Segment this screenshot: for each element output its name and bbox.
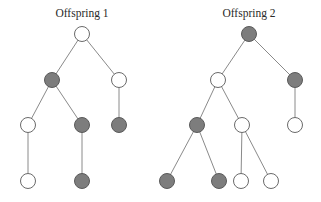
filled-node-circle xyxy=(160,174,175,189)
filled-node-circle xyxy=(75,118,90,133)
tree-edge xyxy=(52,34,82,80)
empty-node-circle xyxy=(288,118,303,133)
tree-edge xyxy=(197,125,219,181)
filled-node-circle xyxy=(190,118,205,133)
filled-node-circle xyxy=(288,73,303,88)
tree-offspring-2: Offspring 2 xyxy=(160,7,303,189)
tree-edge xyxy=(249,34,295,80)
nodes xyxy=(21,27,127,189)
empty-node-circle xyxy=(211,73,226,88)
tree-edge xyxy=(167,125,197,181)
tree-title-offspring-2: Offspring 2 xyxy=(222,7,275,20)
tree-edge xyxy=(82,34,119,80)
tree-edge xyxy=(52,80,82,125)
empty-node-circle xyxy=(234,174,249,189)
edges xyxy=(167,34,295,181)
filled-node-circle xyxy=(212,174,227,189)
tree-edge xyxy=(242,125,271,181)
empty-node-circle xyxy=(75,27,90,42)
empty-node-circle xyxy=(112,73,127,88)
nodes xyxy=(160,27,303,189)
edges xyxy=(28,34,119,181)
tree-title-offspring-1: Offspring 1 xyxy=(55,7,108,20)
tree-edge xyxy=(218,34,249,80)
tree-diagram: Offspring 1 Offspring 2 xyxy=(0,0,321,202)
tree-offspring-1: Offspring 1 xyxy=(21,7,127,189)
filled-node-circle xyxy=(112,118,127,133)
empty-node-circle xyxy=(235,118,250,133)
filled-node-circle xyxy=(242,27,257,42)
tree-edge xyxy=(241,125,242,181)
filled-node-circle xyxy=(75,174,90,189)
empty-node-circle xyxy=(21,118,36,133)
filled-node-circle xyxy=(45,73,60,88)
empty-node-circle xyxy=(21,174,36,189)
empty-node-circle xyxy=(264,174,279,189)
